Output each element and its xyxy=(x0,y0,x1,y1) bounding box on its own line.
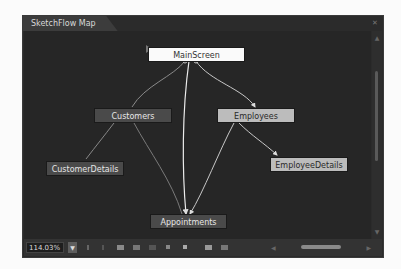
zoom-level-field[interactable]: 114.03% xyxy=(26,242,64,253)
map-canvas[interactable]: MainScreen Customers Employees CustomerD… xyxy=(24,31,371,239)
close-icon[interactable]: ✕ xyxy=(372,20,378,26)
navigate-icon[interactable] xyxy=(220,243,229,252)
panel-title-tab[interactable]: SketchFlow Map xyxy=(23,16,118,31)
map-node-customerdetails[interactable]: CustomerDetails xyxy=(46,161,124,176)
scroll-right-icon[interactable]: ▶ xyxy=(366,243,371,252)
sketchflow-map-panel: SketchFlow Map ✕ Ma xyxy=(22,15,384,258)
vertical-scrollbar[interactable]: ▲ ▼ xyxy=(372,31,382,239)
undo-icon[interactable] xyxy=(84,243,93,252)
map-node-appointments[interactable]: Appointments xyxy=(150,214,227,229)
map-toolbar: 114.03% ▼ ◀ ▶ xyxy=(24,239,382,256)
insert-icon[interactable] xyxy=(148,243,157,252)
new-screen-icon[interactable] xyxy=(116,243,125,252)
chevron-down-icon[interactable]: ▼ xyxy=(68,242,77,253)
new-component-icon[interactable] xyxy=(132,243,141,252)
scroll-down-icon[interactable]: ▼ xyxy=(374,229,380,235)
map-node-employees[interactable]: Employees xyxy=(217,108,295,123)
scroll-up-icon[interactable]: ▲ xyxy=(374,35,380,41)
redo-icon[interactable] xyxy=(99,243,108,252)
map-node-mainscreen[interactable]: MainScreen xyxy=(148,47,245,62)
horizontal-scrollbar[interactable]: ◀ ▶ xyxy=(271,243,371,252)
map-node-customers[interactable]: Customers xyxy=(94,108,172,123)
stop-icon[interactable] xyxy=(181,243,190,252)
map-node-employeedetails[interactable]: EmployeeDetails xyxy=(270,157,348,172)
scroll-left-icon[interactable]: ◀ xyxy=(271,243,276,252)
fit-icon[interactable] xyxy=(204,243,213,252)
vertical-scroll-thumb[interactable] xyxy=(375,71,378,161)
connect-icon[interactable] xyxy=(165,243,174,252)
horizontal-scroll-thumb[interactable] xyxy=(301,245,341,249)
